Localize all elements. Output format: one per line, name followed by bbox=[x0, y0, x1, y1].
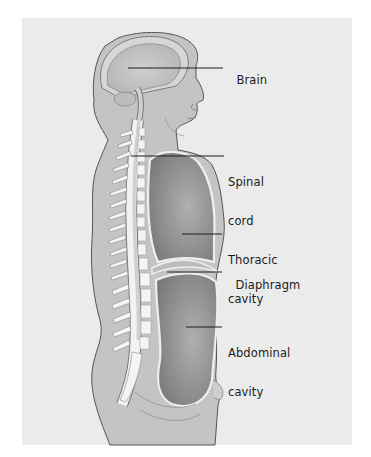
label-thoracic-cavity-line2: cavity bbox=[228, 293, 278, 306]
label-abdominal-cavity: Abdominal cavity bbox=[228, 321, 290, 412]
label-abdominal-cavity-line1: Abdominal bbox=[228, 347, 290, 360]
label-spinal-cord-line1: Spinal bbox=[228, 176, 264, 189]
label-abdominal-cavity-line2: cavity bbox=[228, 386, 290, 399]
label-spinal-cord-line2: cord bbox=[228, 215, 264, 228]
label-brain: Brain bbox=[229, 61, 267, 87]
anatomy-figure bbox=[0, 0, 371, 457]
abdominal-cavity-shape bbox=[156, 273, 217, 406]
label-brain-text: Brain bbox=[237, 73, 268, 87]
label-diaphragm-text: Diaphragm bbox=[236, 278, 301, 292]
label-diaphragm: Diaphragm bbox=[228, 266, 300, 292]
